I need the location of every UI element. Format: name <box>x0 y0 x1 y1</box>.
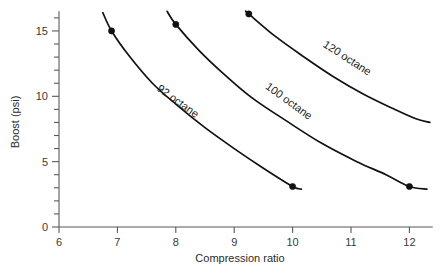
x-tick-label: 8 <box>173 236 179 248</box>
series-label-100-octane: 100 octane <box>264 80 315 122</box>
data-point-marker <box>290 183 296 189</box>
x-tick-label: 12 <box>403 236 415 248</box>
curve-92-octane <box>103 13 302 189</box>
x-axis: 6789101112 <box>56 227 433 248</box>
series-markers <box>108 11 412 190</box>
y-axis-tick-labels: 051015 <box>36 25 48 233</box>
data-point-marker <box>173 21 179 27</box>
y-axis-title: Boost (psi) <box>9 96 21 149</box>
x-tick-label: 11 <box>345 236 356 248</box>
x-axis-title: Compression ratio <box>195 252 284 264</box>
data-point-marker <box>246 11 252 17</box>
curve-120-octane <box>246 11 430 122</box>
y-tick-label: 5 <box>42 156 48 168</box>
x-axis-ticks <box>59 227 409 233</box>
y-tick-label: 0 <box>42 221 48 233</box>
x-tick-label: 7 <box>114 236 120 248</box>
series-label-92-octane: 92 octane <box>155 82 201 120</box>
data-point-marker <box>108 28 114 34</box>
y-axis-ticks <box>52 18 59 227</box>
y-tick-label: 15 <box>36 25 48 37</box>
y-tick-label: 10 <box>36 90 48 102</box>
data-point-marker <box>406 183 412 189</box>
x-axis-tick-labels: 6789101112 <box>56 236 416 248</box>
x-tick-label: 6 <box>56 236 62 248</box>
x-tick-label: 10 <box>286 236 298 248</box>
y-axis: 051015 <box>36 11 59 233</box>
x-tick-label: 9 <box>231 236 237 248</box>
chart-container: 051015 6789101112 92 octane100 octane120… <box>0 0 447 273</box>
series-curves <box>103 11 430 189</box>
series-label-120-octane: 120 octane <box>321 38 373 78</box>
boost-vs-compression-ratio-chart: 051015 6789101112 92 octane100 octane120… <box>0 0 447 273</box>
series-labels: 92 octane100 octane120 octane <box>155 38 373 122</box>
